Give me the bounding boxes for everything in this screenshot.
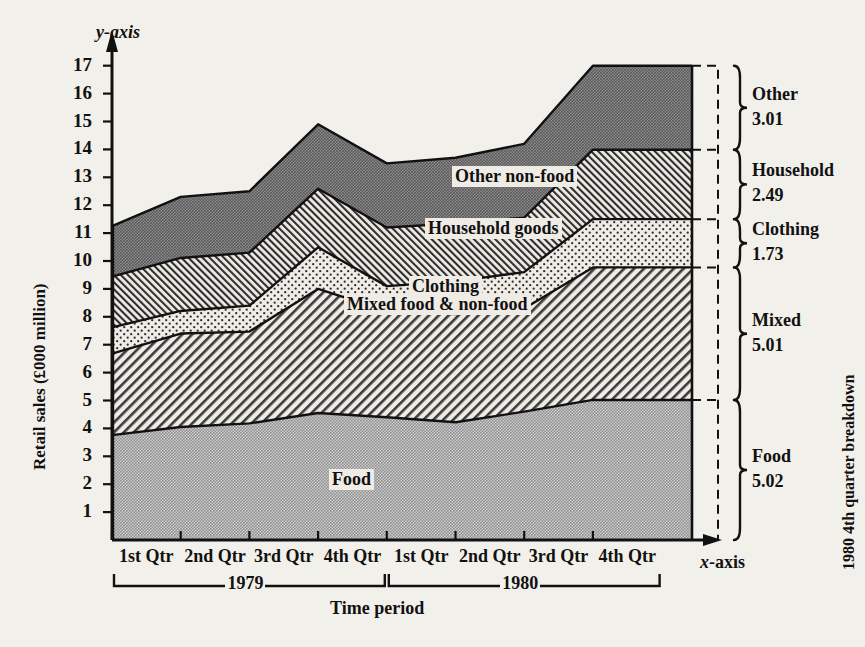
breakdown-name-other: Other: [752, 84, 798, 105]
breakdown-value-food: 5.02: [752, 471, 784, 492]
y-tick-label: 16: [62, 82, 92, 104]
y-axis-name: y-axis: [96, 22, 140, 43]
year-label-1: 1980: [500, 573, 540, 594]
brace-food: [734, 400, 747, 540]
y-tick-label: 17: [62, 54, 92, 76]
band-label-food: Food: [329, 469, 374, 490]
band-label-mixed-food-non-food: Mixed food & non-food: [344, 294, 531, 315]
brace-household: [734, 150, 747, 219]
x-axis-name-italic: x: [700, 552, 709, 572]
y-tick-label: 15: [62, 110, 92, 132]
breakdown-value-household: 2.49: [752, 185, 784, 206]
y-tick-label: 2: [62, 472, 92, 494]
x-axis-name: x-axis: [700, 552, 745, 573]
brace-mixed: [734, 267, 747, 400]
chart-canvas: Retail sales (£000 million) y-axis x-axi…: [0, 0, 865, 647]
year-label-0: 1979: [225, 573, 265, 594]
year-group-bars: [114, 574, 660, 586]
breakdown-value-other: 3.01: [752, 109, 784, 130]
y-tick-label: 6: [62, 361, 92, 383]
breakdown-title: 1980 4th quarter breakdown: [840, 375, 858, 570]
breakdown-guide-outline: [692, 66, 718, 540]
x-axis-name-rest: -axis: [709, 552, 745, 572]
y-axis-name-rest: -axis: [104, 22, 140, 42]
y-tick-label: 14: [62, 137, 92, 159]
y-tick-label: 9: [62, 277, 92, 299]
x-axis-title: Time period: [330, 598, 424, 619]
breakdown-name-mixed: Mixed: [752, 310, 801, 331]
y-tick-label: 10: [62, 249, 92, 271]
band-label-household-goods: Household goods: [425, 218, 562, 239]
y-tick-label: 1: [62, 500, 92, 522]
y-tick-label: 11: [62, 221, 92, 243]
breakdown-value-mixed: 5.01: [752, 335, 784, 356]
y-tick-label: 7: [62, 333, 92, 355]
band-label-other-non-food: Other non-food: [452, 166, 577, 187]
breakdown-name-food: Food: [752, 446, 791, 467]
brace-other: [734, 66, 747, 150]
band-label-clothing: Clothing: [409, 276, 482, 297]
breakdown-brackets: [692, 66, 747, 540]
y-tick-label: 13: [62, 165, 92, 187]
y-tick-label: 12: [62, 193, 92, 215]
y-tick-label: 8: [62, 305, 92, 327]
y-tick-label: 5: [62, 389, 92, 411]
breakdown-name-clothing: Clothing: [752, 219, 819, 240]
breakdown-name-household: Household: [752, 160, 834, 181]
y-axis-name-italic: y: [96, 22, 104, 42]
x-tick-label-7: 4th Qtr: [582, 546, 672, 567]
y-tick-label: 4: [62, 416, 92, 438]
brace-clothing: [734, 219, 747, 267]
breakdown-value-clothing: 1.73: [752, 244, 784, 265]
y-axis-title: Retail sales (£000 million): [30, 283, 50, 470]
y-tick-label: 3: [62, 444, 92, 466]
